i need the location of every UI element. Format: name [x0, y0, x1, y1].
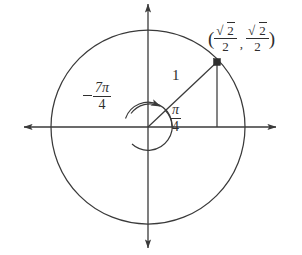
- coord-x-denominator: 2: [220, 39, 231, 53]
- coord-y-fraction: √ 2 2: [246, 24, 269, 53]
- coord-x-radicand: 2: [227, 22, 235, 38]
- coord-y-radicand: 2: [259, 22, 267, 38]
- terminal-ray: [148, 62, 217, 127]
- negative-angle-numerator: 7π: [93, 81, 111, 97]
- minus-sign-icon: [83, 95, 92, 96]
- positive-angle-fraction: π 4: [170, 103, 181, 134]
- radical-icon: √: [216, 23, 223, 38]
- coord-close-paren: ): [269, 29, 275, 48]
- coord-x-fraction: √ 2 2: [214, 24, 237, 53]
- unit-circle-figure: ( √ 2 2 , √ 2 2 ) 7π 4 π 4: [0, 0, 302, 255]
- terminal-point-marker: [214, 59, 221, 66]
- point-coordinates-label: ( √ 2 2 , √ 2 2 ): [208, 24, 275, 53]
- coord-x-radical: √ 2: [214, 24, 237, 39]
- coord-comma: ,: [237, 37, 246, 50]
- radical-icon: √: [248, 23, 255, 38]
- coord-y-denominator: 2: [252, 39, 263, 53]
- radius-length-label: 1: [172, 68, 180, 83]
- positive-angle-denominator: 4: [170, 119, 181, 134]
- positive-angle-numerator: π: [170, 103, 181, 119]
- positive-angle-label: π 4: [170, 103, 181, 134]
- coord-y-radical: √ 2: [246, 24, 269, 39]
- negative-angle-fraction: 7π 4: [93, 81, 111, 112]
- negative-angle-denominator: 4: [97, 97, 108, 112]
- negative-angle-label: 7π 4: [83, 81, 111, 112]
